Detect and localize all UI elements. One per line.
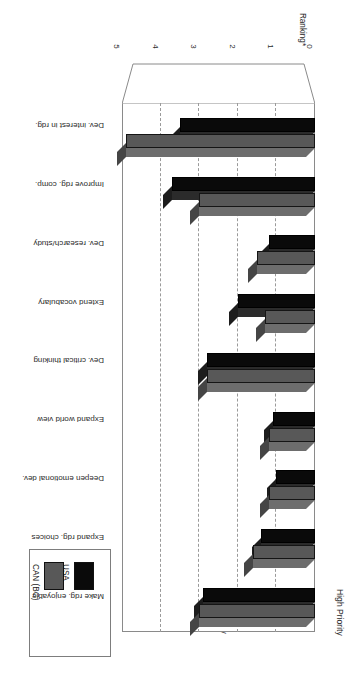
bar-top-face	[253, 559, 315, 568]
bar-can-bc--1	[199, 193, 315, 207]
bar-can-bc--4	[207, 369, 315, 383]
figure-page: Figure 11.1:Reading aims — USA vs BC: Hi…	[0, 0, 363, 679]
bar-top-face	[265, 324, 315, 333]
bar-front-face	[257, 251, 315, 265]
chart-plot-area: 012345 Ranking* Dev. interest in rdg.Imp…	[120, 79, 315, 656]
bar-can-bc--7	[253, 545, 315, 559]
category-label-3: Extend vocabulary	[38, 298, 104, 307]
category-label-2: Dev. research/study	[33, 239, 104, 248]
bar-usa-0	[180, 118, 315, 132]
bar-can-bc--2	[257, 251, 315, 265]
category-label-0: Dev. interest in rdg.	[35, 121, 104, 130]
category-label-7: Expand rdg. choices	[32, 533, 105, 542]
bar-front-face	[273, 412, 315, 426]
bar-top-face	[257, 265, 315, 274]
bar-usa-8	[203, 588, 315, 602]
gridline-4	[160, 103, 161, 632]
bar-front-face	[126, 134, 315, 148]
bar-usa-7	[261, 529, 315, 543]
bar-front-face	[238, 294, 315, 308]
legend-swatch-can	[44, 562, 64, 590]
bar-can-bc--0	[126, 134, 315, 148]
bar-can-bc--3	[265, 310, 315, 324]
bar-front-face	[265, 310, 315, 324]
bar-usa-4	[207, 353, 315, 367]
bar-front-face	[269, 235, 315, 249]
bar-top-face	[199, 618, 315, 627]
bar-front-face	[180, 118, 315, 132]
tick-label-3: 3	[189, 44, 198, 48]
bar-front-face	[269, 428, 315, 442]
bar-front-face	[276, 470, 315, 484]
category-label-8: Make rdg. enjoyable	[32, 592, 104, 601]
bar-can-bc--5	[269, 428, 315, 442]
bar-front-face	[269, 486, 315, 500]
bar-front-face	[261, 529, 315, 543]
bar-top-face	[199, 207, 315, 216]
bar-front-face	[199, 193, 315, 207]
bar-front-face	[199, 604, 315, 618]
bar-top-face	[207, 383, 315, 392]
category-label-6: Deepen emotional dev.	[22, 474, 104, 483]
tick-label-4: 4	[151, 44, 160, 48]
plot-floor-3d	[122, 58, 315, 104]
category-label-1: Improve rdg. comp.	[35, 180, 104, 189]
bar-front-face	[203, 588, 315, 602]
category-label-4: Dev. critical thinking	[33, 357, 104, 366]
bar-can-bc--8	[199, 604, 315, 618]
bar-top-face	[126, 148, 315, 157]
axis-title: Ranking*	[298, 13, 307, 46]
legend-swatch-usa	[74, 562, 94, 590]
bar-usa-5	[273, 412, 315, 426]
tick-label-5: 5	[112, 44, 121, 48]
bar-front-face	[172, 177, 315, 191]
bar-top-face	[269, 442, 315, 451]
bar-usa-2	[269, 235, 315, 249]
annotation-high-priority: High Priority	[335, 589, 345, 636]
tick-label-1: 1	[267, 44, 276, 48]
category-label-5: Expand world view	[37, 415, 104, 424]
bar-top-face	[269, 500, 315, 509]
bar-usa-3	[238, 294, 315, 308]
bar-front-face	[207, 369, 315, 383]
bar-usa-1	[172, 177, 315, 191]
chart-legend: USA CAN (BC)	[29, 549, 111, 657]
bar-usa-6	[276, 470, 315, 484]
bar-can-bc--6	[269, 486, 315, 500]
tick-label-2: 2	[228, 44, 237, 48]
bar-front-face	[207, 353, 315, 367]
bar-front-face	[253, 545, 315, 559]
